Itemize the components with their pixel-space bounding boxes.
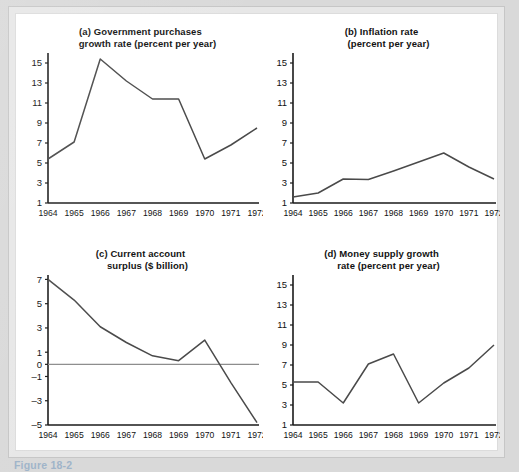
x-tick-label: 1972 xyxy=(484,430,500,440)
y-tick-label: 7 xyxy=(282,359,287,370)
chart-a-title-line2: growth rate (percent per year) xyxy=(18,38,263,50)
x-tick-label: 1971 xyxy=(459,430,478,440)
chart-b-title-line2: (percent per year) xyxy=(263,38,500,50)
figure-outer-frame: (a) Government purchases growth rate (pe… xyxy=(8,6,505,458)
x-tick-label: 1971 xyxy=(221,208,240,218)
y-tick-label: 3 xyxy=(37,177,42,188)
y-tick-label: 5 xyxy=(37,157,42,168)
y-tick-label: 15 xyxy=(31,57,42,68)
y-tick-label: –5 xyxy=(31,419,42,430)
y-tick-label: 15 xyxy=(276,57,287,68)
x-tick-label: 1971 xyxy=(221,430,240,440)
chart-svg: 1357911131519641965196619671968196919701… xyxy=(263,271,500,447)
y-tick-label: 13 xyxy=(276,299,287,310)
y-tick-label: 5 xyxy=(282,379,287,390)
y-tick-label: 1 xyxy=(282,419,287,430)
figure-inner-panel: (a) Government purchases growth rate (pe… xyxy=(15,13,498,451)
x-tick-label: 1970 xyxy=(195,208,214,218)
chart-panel-b: (b) Inflation rate (percent per year) 13… xyxy=(263,18,500,240)
y-tick-label: 1 xyxy=(37,347,42,358)
y-tick-label: 3 xyxy=(37,322,42,333)
x-tick-label: 1966 xyxy=(334,208,353,218)
data-series-line xyxy=(48,59,257,159)
y-tick-label: 11 xyxy=(277,319,287,330)
y-tick-label: 7 xyxy=(37,137,42,148)
x-tick-label: 1969 xyxy=(409,430,428,440)
x-tick-label: 1965 xyxy=(65,430,84,440)
x-tick-label: 1972 xyxy=(484,208,500,218)
x-tick-label: 1968 xyxy=(143,208,162,218)
y-tick-label: 1 xyxy=(37,197,42,208)
chart-c-title: (c) Current account surplus ($ billion) xyxy=(18,240,263,271)
chart-c-title-line1: (c) Current account xyxy=(96,248,186,259)
x-tick-label: 1972 xyxy=(247,430,263,440)
y-tick-label: 7 xyxy=(282,137,287,148)
x-tick-label: 1972 xyxy=(247,208,263,218)
x-tick-label: 1969 xyxy=(169,430,188,440)
chart-a-title: (a) Government purchases growth rate (pe… xyxy=(18,18,263,49)
x-tick-label: 1966 xyxy=(334,430,353,440)
y-tick-label: 1 xyxy=(282,197,287,208)
x-tick-label: 1967 xyxy=(117,208,136,218)
x-tick-label: 1969 xyxy=(409,208,428,218)
chart-c-plot: –5–3–10135719641965196619671968196919701… xyxy=(18,271,263,447)
x-tick-label: 1970 xyxy=(434,430,453,440)
chart-d-title-line2: rate (percent per year) xyxy=(263,260,500,272)
x-tick-label: 1970 xyxy=(434,208,453,218)
x-tick-label: 1965 xyxy=(309,430,328,440)
chart-d-title-line1: (d) Money supply growth xyxy=(324,248,439,259)
chart-b-title-line1: (b) Inflation rate xyxy=(345,26,419,37)
chart-b-title: (b) Inflation rate (percent per year) xyxy=(263,18,500,49)
y-tick-label: 9 xyxy=(282,117,287,128)
data-series-line xyxy=(293,153,494,197)
x-tick-label: 1964 xyxy=(283,430,302,440)
y-tick-label: 7 xyxy=(37,274,42,285)
chart-grid: (a) Government purchases growth rate (pe… xyxy=(16,14,497,450)
x-tick-label: 1970 xyxy=(195,430,214,440)
chart-c-title-line2: surplus ($ billion) xyxy=(18,260,263,272)
chart-svg: 1357911131519641965196619671968196919701… xyxy=(18,49,263,225)
y-tick-label: 13 xyxy=(31,77,42,88)
x-tick-label: 1968 xyxy=(384,430,403,440)
data-series-line xyxy=(48,279,257,422)
chart-panel-c: (c) Current account surplus ($ billion) … xyxy=(18,240,263,462)
x-tick-label: 1967 xyxy=(359,208,378,218)
chart-svg: –5–3–10135719641965196619671968196919701… xyxy=(18,271,263,447)
chart-d-title: (d) Money supply growth rate (percent pe… xyxy=(263,240,500,271)
y-tick-label: 13 xyxy=(276,77,287,88)
x-tick-label: 1965 xyxy=(309,208,328,218)
x-tick-label: 1971 xyxy=(459,208,478,218)
y-tick-label: 11 xyxy=(32,97,42,108)
y-tick-label: –3 xyxy=(31,395,42,406)
x-tick-label: 1964 xyxy=(38,430,57,440)
chart-d-plot: 1357911131519641965196619671968196919701… xyxy=(263,271,500,447)
chart-a-plot: 1357911131519641965196619671968196919701… xyxy=(18,49,263,225)
chart-b-plot: 1357911131519641965196619671968196919701… xyxy=(263,49,500,225)
x-tick-label: 1967 xyxy=(117,430,136,440)
figure-page: (a) Government purchases growth rate (pe… xyxy=(0,0,519,472)
x-tick-label: 1966 xyxy=(91,208,110,218)
chart-svg: 1357911131519641965196619671968196919701… xyxy=(263,49,500,225)
x-tick-label: 1968 xyxy=(143,430,162,440)
y-tick-label: 5 xyxy=(282,157,287,168)
y-tick-label: 0 xyxy=(37,359,42,370)
y-tick-label: 9 xyxy=(282,339,287,350)
x-tick-label: 1964 xyxy=(283,208,302,218)
x-tick-label: 1966 xyxy=(91,430,110,440)
x-tick-label: 1967 xyxy=(359,430,378,440)
x-tick-label: 1965 xyxy=(65,208,84,218)
chart-panel-a: (a) Government purchases growth rate (pe… xyxy=(18,18,263,240)
y-tick-label: 3 xyxy=(282,177,287,188)
chart-a-title-line1: (a) Government purchases xyxy=(79,26,202,37)
x-tick-label: 1969 xyxy=(169,208,188,218)
y-tick-label: 15 xyxy=(276,279,287,290)
y-tick-label: –1 xyxy=(31,371,42,382)
x-tick-label: 1968 xyxy=(384,208,403,218)
y-tick-label: 11 xyxy=(277,97,287,108)
y-tick-label: 3 xyxy=(282,399,287,410)
data-series-line xyxy=(293,345,494,403)
figure-caption: Figure 18-2 xyxy=(14,459,72,471)
chart-panel-d: (d) Money supply growth rate (percent pe… xyxy=(263,240,500,462)
y-tick-label: 9 xyxy=(37,117,42,128)
y-tick-label: 5 xyxy=(37,298,42,309)
